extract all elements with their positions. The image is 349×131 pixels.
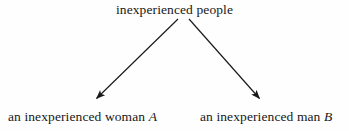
node-root-text: inexperienced people (116, 2, 233, 17)
node-right-child: an inexperienced man B (200, 110, 332, 124)
edge-root-to-right (189, 19, 260, 99)
node-right-child-variable: B (324, 109, 332, 124)
node-left-child-variable: A (149, 109, 157, 124)
node-left-child-text: an inexperienced woman (8, 109, 145, 124)
node-right-child-text: an inexperienced man (200, 109, 320, 124)
node-root: inexperienced people (0, 3, 349, 17)
diagram-canvas: inexperienced people an inexperienced wo… (0, 0, 349, 131)
edge-root-to-left (97, 19, 179, 99)
node-left-child: an inexperienced woman A (8, 110, 157, 124)
